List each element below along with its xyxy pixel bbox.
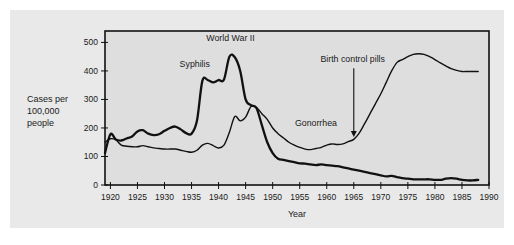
x-tick-label: 1935 — [182, 192, 201, 202]
y-axis-title: Cases per 100,000 people — [27, 94, 68, 128]
y-tick-label: 400 — [84, 66, 98, 76]
x-tick-label: 1955 — [290, 192, 309, 202]
x-tick-label: 1965 — [344, 192, 363, 202]
annotation-label-gonorrhea: Gonorrhea — [295, 118, 337, 128]
x-tick-label: 1925 — [128, 192, 147, 202]
x-tick-label: 1960 — [317, 192, 336, 202]
annotation-label-birth-control-pills: Birth control pills — [320, 54, 385, 64]
x-tick-label: 1985 — [452, 192, 471, 202]
chart-canvas: 0100200300400500 19201925193019351940194… — [0, 0, 514, 245]
x-tick-label: 1920 — [101, 192, 120, 202]
y-axis-title-line-1: Cases per — [27, 94, 68, 104]
y-axis-title-line-3: people — [27, 118, 54, 128]
y-tick-label: 0 — [93, 180, 98, 190]
y-tick-label: 500 — [84, 37, 98, 47]
y-axis-tick-labels: 0100200300400500 — [84, 37, 98, 190]
x-tick-label: 1970 — [371, 192, 390, 202]
x-tick-label: 1975 — [398, 192, 417, 202]
y-axis-title-line-2: 100,000 — [27, 106, 60, 116]
x-tick-label: 1950 — [263, 192, 282, 202]
y-tick-label: 300 — [84, 94, 98, 104]
x-tick-label: 1940 — [209, 192, 228, 202]
annotation-label-world-war-ii: World War II — [206, 33, 254, 43]
x-tick-label: 1980 — [425, 192, 444, 202]
x-tick-label: 1990 — [480, 192, 499, 202]
annotation-label-syphilis: Syphilis — [180, 59, 211, 69]
x-axis-tick-labels: 1920192519301935194019451950195519601965… — [101, 192, 499, 202]
x-tick-label: 1945 — [236, 192, 255, 202]
y-tick-label: 200 — [84, 123, 98, 133]
y-tick-label: 100 — [84, 151, 98, 161]
x-tick-label: 1930 — [155, 192, 174, 202]
x-axis-title: Year — [288, 209, 306, 219]
